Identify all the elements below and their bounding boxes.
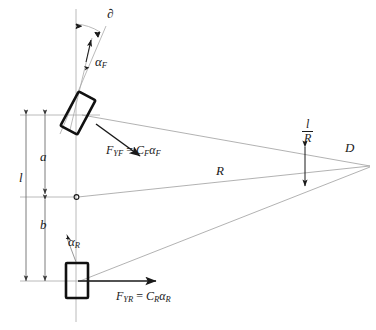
alpha-f-subscript: F (102, 60, 107, 70)
alpha-r-glyph: α (68, 234, 75, 249)
vehicle-cornering-diagram: ∂ αF αR a b l R D l R FYF=CFαF FYR=CRαR (0, 0, 376, 330)
front-force-F-subscript: YF (113, 148, 123, 158)
rear-force-equals: = (133, 289, 146, 303)
steer-construction (60, 24, 106, 134)
rear-slip-angle-label: αR (68, 235, 80, 249)
instant-center-label: D (345, 141, 354, 154)
front-force-equation: FYF=CFαF (106, 144, 161, 157)
steer-angle-label: ∂ (107, 7, 113, 20)
radius-rays (78, 115, 370, 281)
front-force-C: C (136, 143, 144, 157)
diagram-canvas (0, 0, 376, 330)
front-radius-ray (82, 115, 370, 166)
alpha-f-glyph: α (95, 54, 102, 69)
dimension-a-label: a (40, 150, 47, 163)
rear-force-C: C (146, 289, 154, 303)
rear-force-alpha-subscript: R (166, 294, 171, 304)
front-force-alpha-subscript: F (156, 148, 161, 158)
wheelbase-l-label: l (19, 171, 23, 184)
dimension-lines (26, 115, 45, 281)
rear-force-F-subscript: YR (123, 294, 133, 304)
ackermann-denominator: R (302, 132, 313, 144)
ackermann-angle-fraction: l R (302, 118, 313, 144)
turn-radius-label: R (216, 164, 224, 177)
rear-radius-ray (80, 167, 370, 281)
dimension-b-label: b (40, 218, 47, 231)
ackermann-numerator: l (302, 118, 313, 130)
front-force-equals: = (123, 143, 136, 157)
rear-force-equation: FYR=CRαR (116, 290, 171, 303)
alpha-r-subscript: R (75, 240, 80, 250)
front-slip-angle-label: αF (95, 55, 107, 69)
cg-radius-ray (78, 166, 370, 197)
